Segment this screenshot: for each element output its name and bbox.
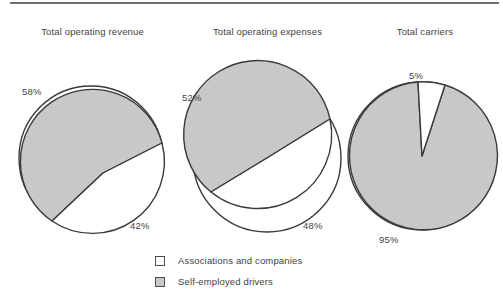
- pie-chart-expenses: [191, 82, 343, 234]
- legend-item-associations: Associations and companies: [155, 250, 395, 271]
- legend-label-self-employed: Self-employed drivers: [178, 276, 273, 287]
- panel-title-carriers: Total carriers: [350, 26, 500, 37]
- figure-canvas: Total operating revenue Total operating …: [0, 0, 503, 308]
- pie-chart-carriers: [346, 74, 498, 234]
- legend-swatch-associations-icon: [155, 256, 165, 266]
- legend-swatch-self-employed-icon: [155, 277, 165, 287]
- legend-item-self-employed: Self-employed drivers: [155, 271, 395, 292]
- pie-expenses-label-self-employed: 52%: [182, 92, 202, 103]
- panel-title-expenses: Total operating expenses: [180, 26, 355, 37]
- legend: Associations and companies Self-employed…: [155, 250, 395, 292]
- legend-label-associations: Associations and companies: [178, 255, 302, 266]
- pie-revenue-label-self-employed: 58%: [22, 86, 42, 97]
- pie-revenue-label-associations: 42%: [130, 220, 150, 231]
- pie-chart-revenue: [17, 84, 165, 232]
- pie-expenses-label-associations: 48%: [303, 220, 323, 231]
- pie-carriers-label-associations: 5%: [409, 70, 423, 81]
- pie-carriers-label-self-employed: 95%: [379, 234, 399, 245]
- top-rule: [10, 2, 499, 4]
- panel-title-revenue: Total operating revenue: [0, 26, 185, 37]
